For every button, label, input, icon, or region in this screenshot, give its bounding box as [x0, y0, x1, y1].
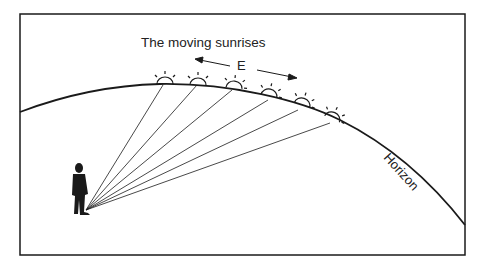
sun-icons — [155, 71, 349, 124]
sun-icon — [188, 72, 208, 85]
sun-icon — [323, 103, 349, 124]
diagram-title: The moving sunrises — [141, 35, 266, 50]
sun-icon — [224, 74, 248, 89]
sight-lines — [86, 85, 330, 210]
direction-arrows — [195, 57, 297, 80]
sun-icon — [155, 71, 175, 84]
frame — [20, 14, 465, 255]
direction-label: E — [237, 58, 246, 73]
